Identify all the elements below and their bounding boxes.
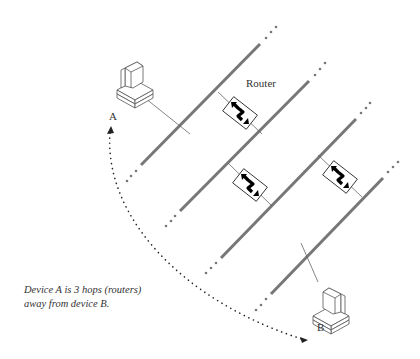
network-segment-4 — [255, 161, 400, 312]
caption: Device A is 3 hops (routers) away from d… — [24, 283, 141, 311]
arrow-up-icon — [107, 126, 114, 134]
device-a-computer — [117, 62, 153, 108]
device-a-label: A — [109, 110, 117, 122]
router-label: Router — [246, 77, 276, 89]
arrow-right-icon — [300, 337, 308, 343]
caption-line-1: Device A is 3 hops (routers) — [24, 283, 141, 297]
device-b-label: B — [317, 321, 324, 333]
network-segment-1 — [126, 26, 278, 183]
caption-line-2: away from device B. — [24, 297, 141, 311]
router-3 — [323, 161, 358, 194]
